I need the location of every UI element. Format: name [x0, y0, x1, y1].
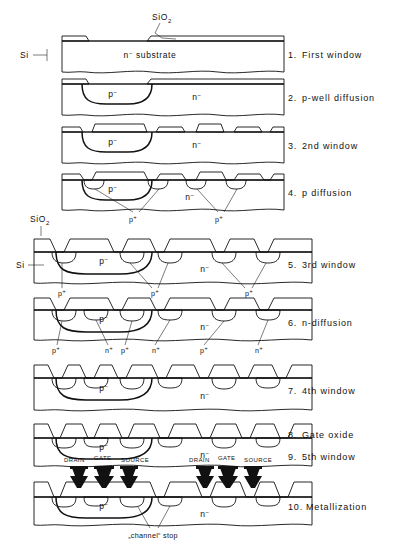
step-6-group: p− n− p+ n+ p+ n+ p+ n+ 6. n-diffusion	[34, 298, 353, 355]
label-p-plus-6c: p+	[200, 345, 208, 355]
label-p-plus-6b: p+	[121, 345, 129, 355]
step-3-caption: 3.	[288, 141, 297, 151]
step-1-group: SiO2 Si n− substrate 1. First window	[20, 12, 362, 73]
terminal-label-drain-1: DRAIN	[64, 457, 85, 463]
step-6-caption: 6.	[288, 318, 297, 328]
label-p-plus-6a: p+	[52, 345, 60, 355]
label-n-plus-6b: n+	[152, 345, 160, 355]
step-7-label: 4th window	[302, 386, 356, 396]
channel-stop-label: „channel“ stop	[128, 531, 178, 540]
process-diagram: SiO2 Si n− substrate 1. First window p− …	[0, 0, 408, 546]
step-9-label: 5th window	[302, 452, 356, 462]
label-n-plus-6c: n+	[255, 345, 263, 355]
oxide-label-mid: SiO2	[30, 214, 50, 226]
label-p-plus-4a: p+	[129, 214, 137, 224]
step-10-label: Metallization	[306, 502, 367, 512]
step-7-caption: 7.	[288, 386, 297, 396]
silicon-label-top: Si	[20, 50, 29, 60]
terminal-label-source-2: SOURCE	[244, 457, 272, 463]
terminal-label-source-1: SOURCE	[121, 457, 149, 463]
step-8-caption: 8.	[288, 430, 297, 440]
step-6-label: n-diffusion	[302, 318, 353, 328]
label-n-plus-6a: n+	[105, 345, 113, 355]
step-10-caption: 10.	[288, 502, 303, 512]
step-8-label: Gate oxide	[302, 430, 354, 440]
step-4-group: p− n− p+ p+ 4. p diffusion	[62, 172, 352, 224]
label-p-plus-5b: p+	[151, 288, 159, 298]
step-5-group: p− n− SiO2 Si p+ p+ p+ 5. 3rd window	[16, 214, 356, 298]
step-3-label: 2nd window	[302, 141, 358, 151]
silicon-label-mid: Si	[16, 260, 25, 270]
step-2-group: p− n− 2. p-well diffusion	[62, 79, 375, 116]
step-10-group: p− n− DRAIN GATE SOURCE DRAIN GATE SOURC…	[34, 455, 367, 540]
oxide-label-top: SiO2	[152, 12, 172, 24]
step-3-group: p− n− 3. 2nd window	[62, 124, 358, 164]
label-p-plus-5c: p+	[245, 288, 253, 298]
step-4-caption: 4.	[288, 188, 297, 198]
terminal-label-gate-1: GATE	[94, 455, 112, 461]
terminal-label-gate-2: GATE	[218, 455, 236, 461]
step-5-label: 3rd window	[302, 260, 356, 270]
step-4-label: p diffusion	[302, 188, 352, 198]
label-p-plus-5a: p+	[58, 288, 66, 298]
step-7-group: p− n− 7. 4th window	[34, 365, 356, 411]
step-1-label: First window	[302, 50, 362, 60]
step-9-caption: 9.	[288, 452, 297, 462]
step-5-caption: 5.	[288, 260, 297, 270]
step-2-label: p-well diffusion	[302, 93, 375, 103]
terminal-label-drain-2: DRAIN	[189, 457, 210, 463]
step-1-caption: 1.	[288, 50, 297, 60]
label-p-plus-4b: p+	[215, 214, 223, 224]
step-2-caption: 2.	[288, 93, 297, 103]
